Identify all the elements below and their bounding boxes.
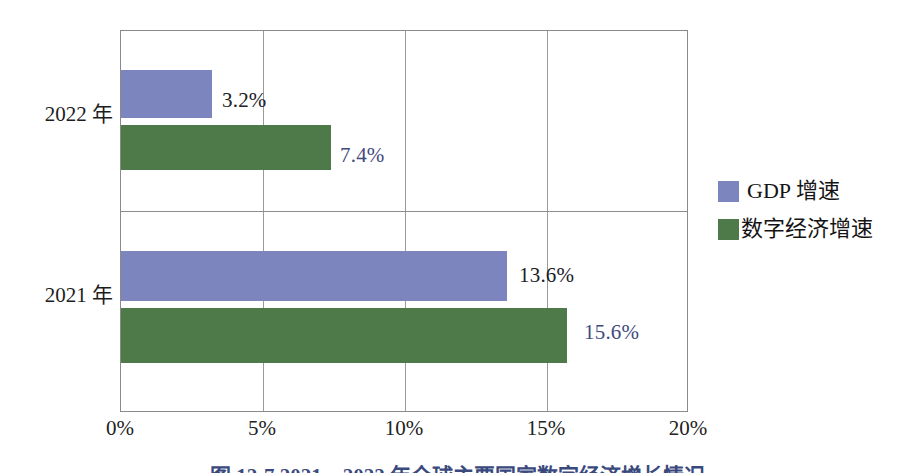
data-label-2021-digital: 15.6% xyxy=(584,322,639,343)
data-label-2021-gdp: 13.6% xyxy=(519,265,574,286)
category-label-2021: 2021 年 xyxy=(28,285,113,306)
data-label-2022-digital: 7.4% xyxy=(340,145,385,166)
xtick-15: 15% xyxy=(527,418,566,439)
xtick-5: 5% xyxy=(248,418,276,439)
legend-item-gdp[interactable]: GDP 增速 xyxy=(718,180,908,202)
legend-swatch-digital-icon xyxy=(718,219,739,240)
bar-2022-gdp[interactable] xyxy=(121,70,212,118)
legend-swatch-gdp-icon xyxy=(718,181,739,202)
xtick-20: 20% xyxy=(669,418,708,439)
legend-label-digital: 数字经济增速 xyxy=(741,218,873,240)
bar-2021-digital[interactable] xyxy=(121,308,567,363)
xtick-10: 10% xyxy=(385,418,424,439)
figure-caption: 图 12-7 2021—2022 年全球主要国家数字经济增长情况 xyxy=(0,459,915,473)
chart-figure: 3.2% 7.4% 13.6% 15.6% 2022 年 2021 年 0% 5… xyxy=(0,0,915,473)
category-label-2022: 2022 年 xyxy=(28,104,113,125)
data-label-2022-gdp: 3.2% xyxy=(222,90,267,111)
legend-label-gdp: GDP 增速 xyxy=(747,180,840,202)
xtick-0: 0% xyxy=(106,418,134,439)
legend-item-digital[interactable]: 数字经济增速 xyxy=(718,218,908,240)
bar-2021-gdp[interactable] xyxy=(121,251,507,301)
chart-legend: GDP 增速 数字经济增速 xyxy=(718,180,908,256)
bar-2022-digital[interactable] xyxy=(121,125,331,170)
plot-area xyxy=(120,30,688,412)
category-divider xyxy=(121,211,687,212)
